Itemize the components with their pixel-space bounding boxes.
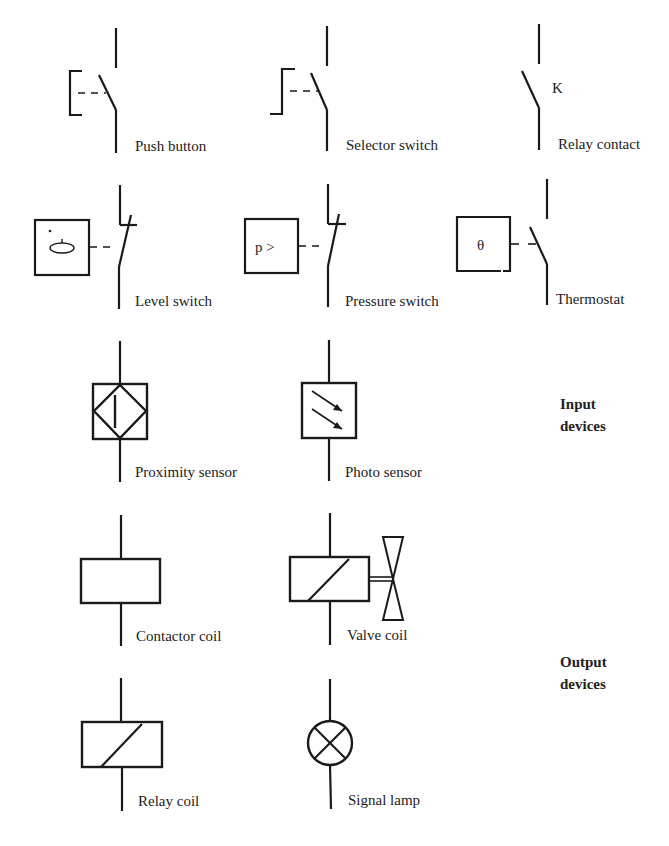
selector-switch-label: Selector switch (346, 137, 439, 153)
selector-switch-symbol: Selector switch (270, 26, 439, 153)
svg-text:Input: Input (560, 396, 596, 412)
proximity-sensor-symbol: Proximity sensor (93, 341, 237, 482)
pressure-switch-marker: p > (255, 239, 275, 255)
float-box (35, 220, 89, 275)
contactor-coil-label: Contactor coil (136, 628, 221, 644)
level-switch-label: Level switch (135, 293, 213, 309)
proximity-sensor-label: Proximity sensor (135, 464, 237, 480)
electrical-symbols-diagram: Push button Selector switch K Relay cont… (0, 0, 669, 846)
svg-text:Output: Output (560, 654, 607, 670)
push-button-label: Push button (135, 138, 207, 154)
relay-contact-label: Relay contact (558, 136, 641, 152)
relay-coil-label: Relay coil (138, 793, 199, 809)
thermostat-marker: θ (477, 237, 484, 253)
push-button-symbol: Push button (70, 28, 207, 154)
svg-text:devices: devices (560, 676, 606, 692)
relay-contact-marker: K (552, 80, 563, 96)
output-devices-group-label: Output devices (560, 654, 607, 692)
signal-lamp-symbol: Signal lamp (308, 679, 420, 809)
thermostat-label: Thermostat (556, 291, 625, 307)
pressure-switch-label: Pressure switch (345, 293, 439, 309)
svg-text:devices: devices (560, 418, 606, 434)
contactor-coil-symbol: Contactor coil (81, 515, 221, 646)
photo-sensor-label: Photo sensor (345, 464, 422, 480)
valve-coil-label: Valve coil (347, 627, 407, 643)
relay-coil-symbol: Relay coil (82, 678, 199, 811)
relay-contact-symbol: K Relay contact (522, 24, 641, 152)
level-switch-symbol: Level switch (35, 185, 213, 309)
valve-coil-symbol: Valve coil (290, 513, 407, 645)
thermostat-symbol: θ Thermostat (457, 179, 625, 307)
signal-lamp-label: Signal lamp (348, 792, 420, 808)
input-devices-group-label: Input devices (560, 396, 606, 434)
photo-sensor-symbol: Photo sensor (302, 340, 422, 481)
pressure-switch-symbol: p > Pressure switch (245, 184, 439, 309)
